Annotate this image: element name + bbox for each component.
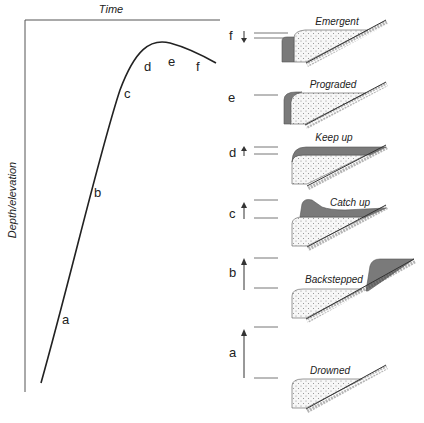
panel-key-f: f bbox=[229, 28, 233, 43]
panel-drowned: a Drowned bbox=[229, 327, 388, 413]
panel-label-backstepped: Backstepped bbox=[305, 274, 363, 285]
depth-axis-label: Depth/elevation bbox=[6, 162, 18, 238]
curve-label-a: a bbox=[62, 312, 70, 327]
curve-label-f: f bbox=[196, 59, 200, 74]
panel-label-emergent: Emergent bbox=[315, 16, 360, 27]
carbonate-rim bbox=[282, 37, 294, 62]
curve-label-e: e bbox=[168, 54, 175, 69]
panel-prograded: e Prograded bbox=[228, 79, 388, 129]
time-depth-graph: Time Depth/elevation a b c d e f bbox=[6, 3, 220, 392]
panel-key-c: c bbox=[229, 206, 236, 221]
time-axis-label: Time bbox=[99, 3, 123, 15]
arrow-up-icon bbox=[241, 258, 247, 290]
panel-catch-up: c Catch up bbox=[229, 197, 388, 251]
curve-label-d: d bbox=[144, 59, 151, 74]
platform-sediment bbox=[292, 379, 362, 408]
panel-label-catch-up: Catch up bbox=[330, 197, 370, 208]
panel-keep-up: d Keep up bbox=[229, 132, 388, 190]
panel-backstepped: b Backstepped bbox=[229, 258, 416, 323]
panel-label-keep-up: Keep up bbox=[315, 132, 353, 143]
panel-emergent: f Emergent bbox=[229, 16, 388, 67]
panel-key-a: a bbox=[229, 345, 237, 360]
panel-key-d: d bbox=[229, 145, 236, 160]
arrow-down-icon bbox=[241, 31, 247, 43]
arrow-up-icon bbox=[241, 329, 247, 378]
diagram-canvas: Time Depth/elevation a b c d e f f Emerg… bbox=[0, 0, 424, 423]
curve-label-c: c bbox=[124, 86, 131, 101]
platform-sediment bbox=[294, 30, 368, 62]
arrow-up-icon bbox=[241, 202, 247, 219]
platform-sediment bbox=[292, 155, 366, 184]
panel-key-e: e bbox=[228, 90, 235, 105]
panel-label-drowned: Drowned bbox=[310, 365, 350, 376]
arrow-up-icon bbox=[241, 146, 247, 156]
curve-label-b: b bbox=[94, 185, 101, 200]
platform-sediment bbox=[290, 93, 366, 124]
panel-key-b: b bbox=[229, 265, 236, 280]
panel-label-prograded: Prograded bbox=[310, 79, 357, 90]
